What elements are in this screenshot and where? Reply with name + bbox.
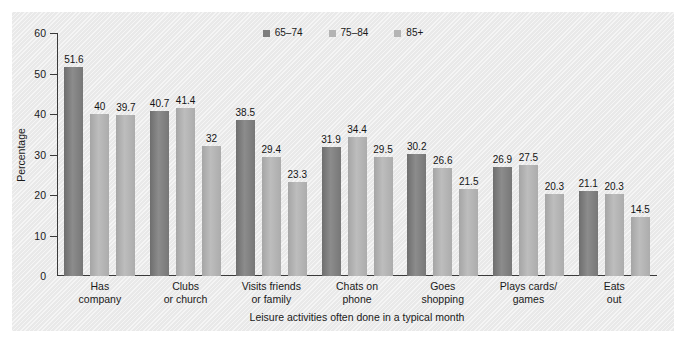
legend-label: 75–84 (341, 28, 369, 38)
bar-slot: 14.5 (631, 33, 650, 276)
x-axis-category-label: Eatsout (571, 280, 657, 305)
bar[interactable]: 29.5 (374, 157, 393, 276)
bar-value-label: 32 (206, 133, 217, 144)
bar-value-label: 38.5 (236, 107, 255, 118)
bar-slot: 41.4 (176, 33, 195, 276)
bar-group: 38.529.423.3 (228, 33, 314, 276)
bar-slot: 20.3 (605, 33, 624, 276)
x-axis-category-line: company (57, 293, 143, 306)
x-axis-tick-labels: HascompanyClubsor churchVisits friendsor… (57, 280, 657, 305)
bar-slot: 29.5 (374, 33, 393, 276)
x-axis-category-line: or family (228, 293, 314, 306)
x-axis-category-label: Goesshopping (400, 280, 486, 305)
bar-slot: 40 (90, 33, 109, 276)
bar-value-label: 21.1 (578, 178, 597, 189)
bar-slot: 23.3 (288, 33, 307, 276)
bar-value-label: 21.5 (459, 176, 478, 187)
x-axis-category-line: out (571, 293, 657, 306)
bar-value-label: 26.9 (493, 154, 512, 165)
bar[interactable]: 31.9 (322, 147, 341, 276)
x-axis-category-line: Visits friends (228, 280, 314, 293)
x-axis-category-line: Chats on (314, 280, 400, 293)
x-axis-category-label: Visits friendsor family (228, 280, 314, 305)
bar[interactable]: 20.3 (545, 194, 564, 276)
bar-slot: 38.5 (236, 33, 255, 276)
bar-slot: 26.6 (433, 33, 452, 276)
bar[interactable]: 30.2 (407, 154, 426, 276)
bar-value-label: 20.3 (545, 181, 564, 192)
x-axis-category-line: Has (57, 280, 143, 293)
bar-group: 21.120.314.5 (571, 33, 657, 276)
bar[interactable]: 20.3 (605, 194, 624, 276)
bar-slot: 21.5 (459, 33, 478, 276)
bar-slot: 27.5 (519, 33, 538, 276)
y-axis-tick-label: 10 (34, 230, 46, 242)
x-axis-category-line: shopping (400, 293, 486, 306)
x-axis-category-label: Hascompany (57, 280, 143, 305)
bar-slot: 30.2 (407, 33, 426, 276)
bar[interactable]: 32 (202, 146, 221, 276)
bar-value-label: 30.2 (407, 141, 426, 152)
legend-label: 85+ (406, 28, 423, 38)
bar-value-label: 23.3 (288, 169, 307, 180)
bar[interactable]: 14.5 (631, 217, 650, 276)
x-axis-title: Leisure activities often done in a typic… (57, 311, 657, 323)
x-axis-category-line: games (486, 293, 572, 306)
x-axis-category-line: or church (143, 293, 229, 306)
bar[interactable]: 34.4 (348, 137, 367, 276)
bar-value-label: 26.6 (433, 155, 452, 166)
x-axis-category-line: Plays cards/ (486, 280, 572, 293)
x-axis-category-line: Goes (400, 280, 486, 293)
bar-value-label: 39.7 (116, 102, 135, 113)
bar[interactable]: 21.1 (579, 191, 598, 276)
bar-group: 40.741.432 (143, 33, 229, 276)
y-axis-tick-label: 50 (34, 68, 46, 80)
bar[interactable]: 26.6 (433, 168, 452, 276)
bar-slot: 39.7 (116, 33, 135, 276)
bar-slot: 40.7 (150, 33, 169, 276)
bar-slot: 32 (202, 33, 221, 276)
bar-value-label: 34.4 (347, 124, 366, 135)
bar[interactable]: 40.7 (150, 111, 169, 276)
bar[interactable]: 39.7 (116, 115, 135, 276)
bar-value-label: 40.7 (150, 98, 169, 109)
legend-swatch-icon (263, 30, 270, 37)
bar[interactable]: 26.9 (493, 167, 512, 276)
bar-group: 31.934.429.5 (314, 33, 400, 276)
y-axis-tick-label: 0 (40, 270, 46, 282)
legend-label: 65–74 (275, 28, 303, 38)
bar-slot: 29.4 (262, 33, 281, 276)
bar-value-label: 29.4 (262, 144, 281, 155)
bar-value-label: 20.3 (604, 181, 623, 192)
bar[interactable]: 38.5 (236, 120, 255, 276)
bar[interactable]: 40 (90, 114, 109, 276)
x-axis-category-label: Plays cards/games (486, 280, 572, 305)
y-axis-tick-label: 20 (34, 189, 46, 201)
bar[interactable]: 51.6 (64, 67, 83, 276)
bar[interactable]: 29.4 (262, 157, 281, 276)
bar-value-label: 40 (94, 101, 105, 112)
bar-value-label: 41.4 (176, 95, 195, 106)
x-axis-category-label: Clubsor church (143, 280, 229, 305)
bar-value-label: 27.5 (519, 152, 538, 163)
y-axis-tick-label: 30 (34, 149, 46, 161)
bar[interactable]: 23.3 (288, 182, 307, 276)
x-axis-category-line: phone (314, 293, 400, 306)
x-axis-category-line: Clubs (143, 280, 229, 293)
bar[interactable]: 21.5 (459, 189, 478, 276)
bar-slot: 20.3 (545, 33, 564, 276)
bar-slot: 51.6 (64, 33, 83, 276)
bar[interactable]: 27.5 (519, 165, 538, 276)
chart-legend: 65–7475–8485+ (0, 28, 686, 38)
bar-group: 26.927.520.3 (486, 33, 572, 276)
x-axis-category-line: Eats (571, 280, 657, 293)
bar-slot: 31.9 (322, 33, 341, 276)
bar-slot: 21.1 (579, 33, 598, 276)
legend-entry-2: 85+ (394, 28, 423, 38)
bar-value-label: 51.6 (64, 54, 83, 65)
bar-group: 30.226.621.5 (400, 33, 486, 276)
y-axis-tick-label: 40 (34, 108, 46, 120)
legend-entry-0: 65–74 (263, 28, 303, 38)
bar-slot: 34.4 (348, 33, 367, 276)
bar[interactable]: 41.4 (176, 108, 195, 276)
